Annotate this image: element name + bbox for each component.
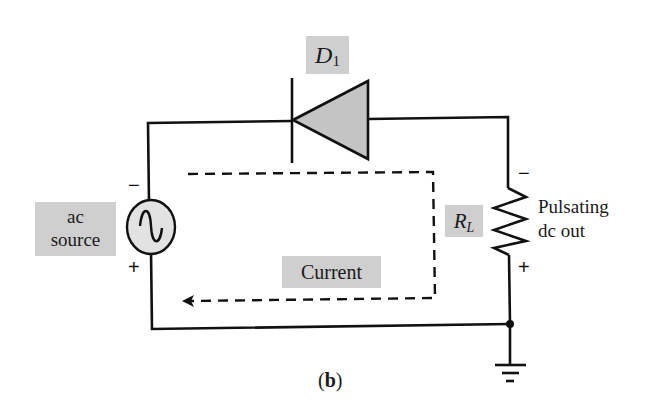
diode-triangle xyxy=(293,81,368,159)
resistor-label-sub: L xyxy=(467,220,475,235)
source-plus-sign: + xyxy=(128,256,140,279)
source-minus-sign: − xyxy=(128,174,140,197)
output-label-line1: Pulsating xyxy=(538,195,609,219)
ac-source-label: ac source xyxy=(35,202,116,256)
current-label: Current xyxy=(282,256,381,288)
caption-letter: b xyxy=(325,369,336,391)
junction-dot xyxy=(506,320,514,328)
caption-open-paren: ( xyxy=(318,369,325,391)
output-label-line2: dc out xyxy=(538,219,609,243)
diode-label-name: D xyxy=(315,42,332,68)
ac-source-label-line1: ac xyxy=(35,205,116,228)
diode-label: D1 xyxy=(306,36,349,74)
figure-caption: (b) xyxy=(318,369,342,392)
resistor-rl-zigzag xyxy=(494,188,526,255)
load-plus-sign: + xyxy=(518,256,530,279)
ac-source-symbol xyxy=(127,200,175,254)
wire-top-left xyxy=(148,121,292,204)
output-label: Pulsating dc out xyxy=(538,195,609,243)
resistor-label-name: R xyxy=(454,209,467,233)
wire-right-lower xyxy=(509,255,510,365)
wire-top-right xyxy=(368,117,508,188)
resistor-label: RL xyxy=(445,205,483,237)
diode-label-sub: 1 xyxy=(332,53,340,69)
ac-source-label-line2: source xyxy=(35,228,116,251)
diode-d1 xyxy=(292,78,368,163)
ground-icon xyxy=(495,365,526,381)
load-minus-sign: − xyxy=(518,162,530,185)
caption-close-paren: ) xyxy=(336,369,343,391)
wires xyxy=(148,117,510,365)
